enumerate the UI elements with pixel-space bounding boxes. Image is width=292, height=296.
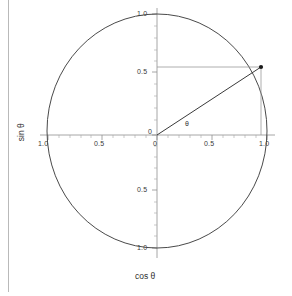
y-tick-label-neg-one: 1.0 — [137, 244, 147, 251]
x-tick-label-zero: 0 — [153, 140, 157, 147]
y-tick-label-neg-half: 0.5 — [137, 186, 147, 193]
theta-angle-label: θ — [185, 120, 189, 127]
theta-point-marker — [259, 65, 263, 69]
y-tick-label-zero: 0 — [148, 128, 152, 135]
x-tick-label-pos-one: 1.0 — [259, 140, 269, 147]
unit-circle-plot — [0, 0, 292, 296]
y-tick-label-pos-one: 1.0 — [137, 10, 147, 17]
unit-circle-figure: 1.0 0.5 0 0.5 1.0 1.0 0.5 0 0.5 1.0 θ co… — [0, 0, 292, 296]
y-axis-title: sin θ — [17, 106, 26, 158]
radius-vector — [157, 67, 261, 135]
x-axis-minor-ticks — [59, 135, 256, 138]
y-axis-minor-ticks — [154, 26, 157, 236]
y-tick-label-pos-half: 0.5 — [137, 68, 147, 75]
x-tick-label-neg-half: 0.5 — [94, 140, 104, 147]
x-axis-title: cos θ — [135, 272, 155, 281]
x-tick-label-pos-half: 0.5 — [204, 140, 214, 147]
x-tick-label-neg-one: 1.0 — [38, 140, 48, 147]
